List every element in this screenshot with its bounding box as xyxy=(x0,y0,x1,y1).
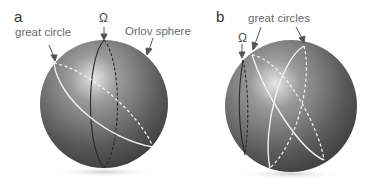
orlov-sphere xyxy=(40,40,168,168)
orlov-sphere-label: Orlov sphere xyxy=(125,25,191,37)
arrow-omega xyxy=(239,44,245,58)
omega-label: Ω xyxy=(238,31,247,45)
panel-a: a great circle Ω Orlov sphere xyxy=(0,0,190,179)
great-circle-label: great circle xyxy=(15,26,71,38)
arrow-orlov-sphere xyxy=(146,38,153,55)
arrow-omega xyxy=(101,27,107,40)
arrow-great-circle xyxy=(49,45,57,61)
arrow-great-circle-1 xyxy=(252,27,261,50)
panel-b: b great circles Ω xyxy=(190,0,376,179)
great-circles-label: great circles xyxy=(248,12,310,24)
panel-label-a: a xyxy=(14,8,22,25)
orlov-sphere-b-figure xyxy=(190,0,376,179)
omega-label: Ω xyxy=(99,11,108,25)
panel-label-b: b xyxy=(216,8,224,25)
sphere-shadow xyxy=(54,167,154,177)
